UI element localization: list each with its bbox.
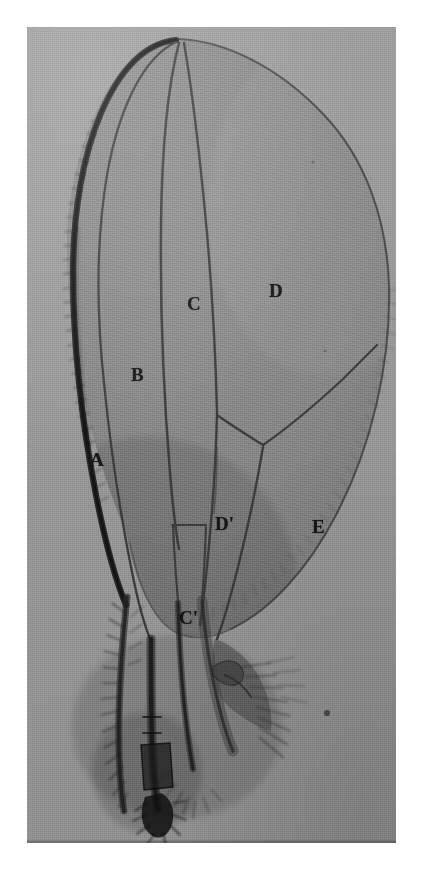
figure-root: A B C C' D D' E <box>0 0 421 869</box>
wing-illustration <box>27 27 396 843</box>
cell-label-b: B <box>131 365 144 384</box>
cell-label-c-prime: C' <box>179 608 198 627</box>
cell-label-d: D <box>269 281 283 300</box>
plate-bottom-edge <box>27 840 396 843</box>
cell-label-c: C <box>187 294 201 313</box>
wing-base-appendages <box>72 597 330 843</box>
basal-segment <box>141 743 173 790</box>
cell-label-a: A <box>90 450 104 469</box>
photographic-plate: A B C C' D D' E <box>27 27 396 843</box>
cell-label-e: E <box>312 517 325 536</box>
cell-label-d-prime: D' <box>215 514 234 533</box>
